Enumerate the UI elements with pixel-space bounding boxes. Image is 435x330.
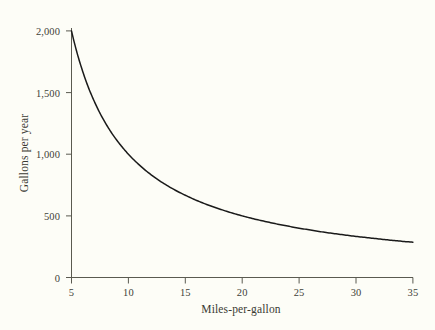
y-axis-title: Gallons per year bbox=[18, 114, 30, 192]
x-tick-label-30: 30 bbox=[351, 287, 362, 298]
x-tick-label-20: 20 bbox=[237, 287, 248, 298]
x-tick-label-5: 5 bbox=[69, 287, 74, 298]
x-tick-label-35: 35 bbox=[408, 287, 419, 298]
x-tick-label-10: 10 bbox=[123, 287, 134, 298]
plot-area bbox=[0, 0, 435, 330]
x-tick-label-15: 15 bbox=[180, 287, 191, 298]
x-tick-marks bbox=[72, 278, 413, 284]
y-tick-label-2000: 2,000 bbox=[12, 25, 60, 36]
chart-figure: 0 500 1,000 1,500 2,000 5 10 15 20 25 30… bbox=[0, 0, 435, 330]
y-tick-marks bbox=[66, 31, 72, 278]
x-axis-title: Miles-per-gallon bbox=[201, 303, 280, 315]
data-curve-gallons-per-year bbox=[72, 31, 413, 242]
y-tick-label-0: 0 bbox=[12, 272, 60, 283]
y-tick-label-500: 500 bbox=[12, 210, 60, 221]
x-tick-label-25: 25 bbox=[294, 287, 305, 298]
y-tick-label-1500: 1,500 bbox=[12, 87, 60, 98]
